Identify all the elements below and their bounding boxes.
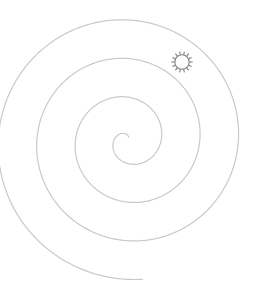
sun-ray xyxy=(184,69,185,72)
marker-circle-icon xyxy=(175,55,189,69)
sun-ray xyxy=(180,52,181,55)
canvas-background xyxy=(0,0,266,291)
spiral-figure xyxy=(0,0,266,291)
drawing-canvas: Spiral with marker xyxy=(0,0,266,291)
sun-ray xyxy=(180,69,181,72)
sun-ray xyxy=(184,52,185,55)
